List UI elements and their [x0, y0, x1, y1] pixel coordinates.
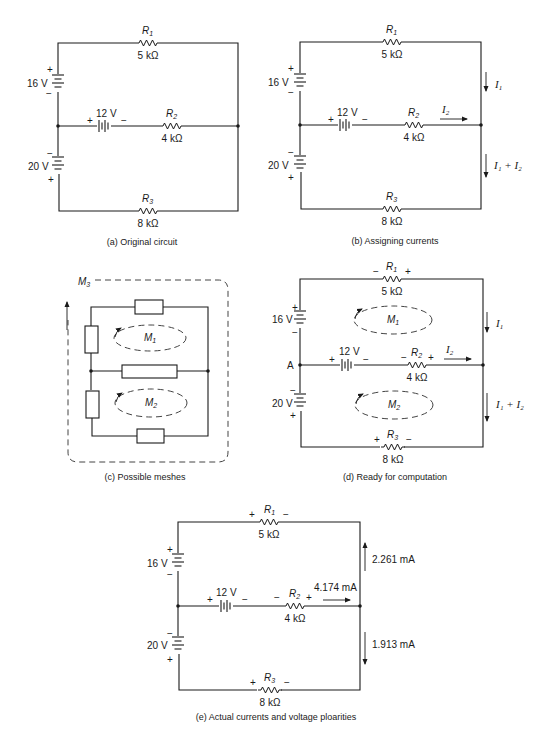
m1-label: M1	[144, 332, 156, 344]
r1-label: R1	[142, 25, 153, 37]
resistor-r1-icon	[380, 276, 404, 282]
junction-node-left	[298, 123, 302, 127]
r2-left-polarity: −	[274, 592, 280, 603]
r3-left-polarity: +	[374, 434, 380, 445]
junction-node-left	[56, 124, 60, 128]
r3-left-polarity: +	[250, 677, 256, 688]
r3-right-polarity: −	[284, 677, 290, 688]
v20-label: 20 V	[268, 160, 289, 171]
v16-label: 16 V	[147, 558, 168, 569]
r1-value: 5 kΩ	[382, 286, 403, 297]
node-a	[298, 363, 302, 367]
v12-label: 12 V	[337, 107, 358, 118]
resistor-r3-icon	[380, 206, 404, 212]
junction-node-right	[479, 123, 483, 127]
v16-label: 16 V	[27, 78, 48, 89]
r2-label: R2	[411, 347, 422, 359]
r1-value: 5 kΩ	[382, 49, 403, 60]
v16-label: 16 V	[268, 77, 289, 88]
battery-20v-icon	[294, 156, 306, 168]
v20-plus: +	[290, 410, 296, 421]
v12-plus: +	[207, 594, 213, 605]
battery-12v-icon	[340, 119, 349, 131]
resistor-r2-icon	[405, 362, 429, 368]
caption-b: (b) Assigning currents	[351, 236, 439, 246]
r3-label: R3	[142, 193, 153, 205]
r1-label: R1	[386, 24, 397, 36]
v16-plus: +	[167, 544, 173, 555]
r3-label: R3	[264, 672, 275, 684]
v20-plus: +	[48, 174, 54, 185]
v16-minus: −	[292, 327, 298, 338]
panel-b-assigning-currents: R1 5 kΩ R2 4 kΩ R3 8 kΩ 16 V + − 20 V − …	[268, 24, 522, 246]
junction-node-left	[89, 369, 93, 373]
v12-minus: −	[242, 594, 248, 605]
junction-node-left	[176, 604, 180, 608]
battery-16v-icon	[52, 75, 64, 87]
i2-label: I2	[441, 103, 450, 117]
resistor-r1-icon	[257, 519, 281, 525]
mesh-m2-arrow-icon	[116, 393, 122, 402]
panel-a-original-circuit: R1 5 kΩ R2 4 kΩ R3 8 kΩ 16 V + − 20 V − …	[27, 25, 240, 247]
resistor-bottom-box	[137, 429, 164, 443]
i1-plus-i2-label: I₁ + I₂	[493, 159, 522, 171]
r3-right-polarity: −	[406, 434, 412, 445]
v20-minus: −	[288, 147, 294, 158]
r1-left-polarity: −	[373, 266, 379, 277]
middle-current-label: 4.174 mA	[314, 582, 357, 593]
v20-minus: −	[167, 628, 173, 639]
v16-plus: +	[292, 302, 298, 313]
v16-minus: −	[288, 87, 294, 98]
caption-d: (d) Ready for computation	[343, 472, 447, 482]
r2-value: 4 kΩ	[162, 133, 183, 144]
v16-minus: −	[167, 569, 173, 580]
v16-plus: +	[47, 64, 53, 75]
mesh-m1-arrow-icon	[115, 328, 121, 337]
v12-label: 12 V	[216, 587, 237, 598]
resistor-left-upper-box	[85, 326, 98, 353]
bottom-right-current-label: 1.913 mA	[372, 639, 415, 650]
resistor-r2-icon	[402, 122, 426, 128]
r3-value: 8 kΩ	[138, 218, 159, 229]
battery-16v-icon	[172, 554, 184, 566]
resistor-top-box	[135, 300, 163, 314]
v20-plus: +	[167, 654, 173, 665]
v20-label: 20 V	[147, 640, 168, 651]
r1-value: 5 kΩ	[138, 50, 159, 61]
top-right-current-label: 2.261 mA	[372, 554, 415, 565]
circuit-figure: R1 5 kΩ R2 4 kΩ R3 8 kΩ 16 V + − 20 V − …	[0, 0, 549, 739]
r2-label: R2	[408, 107, 419, 119]
r2-left-polarity: −	[401, 352, 407, 363]
i2-label: I2	[445, 343, 454, 357]
v20-label: 20 V	[272, 398, 293, 409]
caption-a: (a) Original circuit	[107, 237, 178, 247]
r3-value: 8 kΩ	[260, 697, 281, 708]
i1-label: I1	[494, 78, 502, 92]
m2-label: M2	[145, 397, 157, 409]
v16-minus: −	[46, 88, 52, 99]
v12-label: 12 V	[96, 108, 117, 119]
r3-value: 8 kΩ	[383, 454, 404, 465]
v12-minus: −	[121, 115, 127, 126]
resistor-r2-icon	[160, 123, 184, 129]
r2-value: 4 kΩ	[285, 613, 306, 624]
battery-12v-icon	[221, 600, 230, 612]
v20-label: 20 V	[28, 161, 49, 172]
r1-value: 5 kΩ	[259, 529, 280, 540]
i1-label: I1	[495, 317, 503, 331]
resistor-left-lower-box	[86, 391, 99, 418]
resistor-r1-icon	[136, 40, 160, 46]
v12-plus: +	[87, 115, 93, 126]
panel-d-ready-for-computation: A R1 − + 5 kΩ R2 − + 4 kΩ R3 + − 8 kΩ 16…	[272, 261, 524, 482]
r3-label: R3	[386, 191, 397, 203]
node-a-label: A	[287, 360, 294, 371]
r3-label: R3	[387, 429, 398, 441]
r1-label: R1	[264, 504, 275, 516]
v20-minus: −	[290, 385, 296, 396]
resistor-middle-box	[122, 365, 177, 378]
battery-12v-icon	[99, 120, 108, 132]
r1-left-polarity: +	[249, 509, 255, 520]
v20-plus: +	[288, 172, 294, 183]
m3-label: M3	[78, 276, 90, 288]
r2-label: R2	[289, 588, 300, 600]
